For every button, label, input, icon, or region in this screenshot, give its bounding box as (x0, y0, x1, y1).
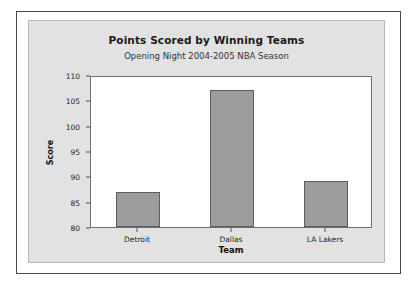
chart-title: Points Scored by Winning Teams (29, 34, 384, 46)
bar[interactable] (210, 90, 254, 227)
x-tick-label: Dallas (219, 235, 242, 244)
chart-panel: Points Scored by Winning Teams Opening N… (28, 20, 385, 263)
bar-group[interactable] (116, 75, 160, 227)
x-tick-label: LA Lakers (307, 235, 343, 244)
plot-area (90, 76, 372, 228)
x-tick-mark (325, 228, 326, 232)
y-axis: 80859095100105110 (29, 76, 90, 228)
bar-group[interactable] (304, 75, 348, 227)
y-tick-label: 90 (70, 173, 80, 182)
chart-subtitle: Opening Night 2004-2005 NBA Season (29, 51, 384, 61)
y-tick-label: 95 (70, 148, 80, 157)
bar-group[interactable] (210, 75, 254, 227)
x-axis: DetroitDallasLA Lakers (90, 228, 372, 246)
x-tick-label: Detroit (124, 235, 150, 244)
bar[interactable] (116, 192, 160, 227)
y-tick-label: 100 (66, 122, 80, 131)
x-tick-mark (231, 228, 232, 232)
figure-outer-frame: Points Scored by Winning Teams Opening N… (16, 11, 401, 274)
x-axis-title: Team (90, 245, 372, 255)
x-tick-mark (137, 228, 138, 232)
bar[interactable] (304, 181, 348, 227)
bars-container (91, 77, 371, 227)
y-tick-label: 80 (70, 224, 80, 233)
y-tick-label: 105 (66, 97, 80, 106)
y-tick-label: 110 (66, 72, 80, 81)
y-tick-label: 85 (70, 198, 80, 207)
